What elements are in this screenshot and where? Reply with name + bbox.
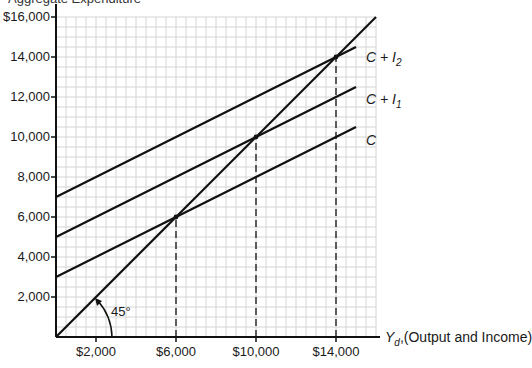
label-c-plus-i2: C + I2: [366, 49, 402, 68]
y-tick-label: $16,000: [3, 9, 50, 24]
label-c: C: [366, 132, 376, 148]
x-tick-label: $2,000: [76, 344, 116, 359]
equilibrium-point: [254, 135, 259, 140]
x-axis-label: Yd,(Output and Income): [385, 329, 532, 348]
y-tick-label: 2,000: [17, 289, 50, 304]
label-c-plus-i1: C + I1: [366, 91, 402, 110]
angle-45-label: 45°: [111, 304, 131, 319]
cropped-top-caption: Aggregate Expenditure: [8, 0, 141, 6]
y-tick-label: 8,000: [17, 169, 50, 184]
equilibrium-point: [174, 215, 179, 220]
y-tick-label: 14,000: [10, 49, 50, 64]
y-tick-label: 4,000: [17, 249, 50, 264]
x-tick-label: $14,000: [313, 344, 360, 359]
angle-arc: [98, 301, 112, 337]
x-tick-label: $6,000: [156, 344, 196, 359]
x-tick-label: $10,000: [233, 344, 280, 359]
y-tick-label: 6,000: [17, 209, 50, 224]
equilibrium-point: [334, 55, 339, 60]
y-tick-label: 12,000: [10, 89, 50, 104]
y-tick-label: 10,000: [10, 129, 50, 144]
